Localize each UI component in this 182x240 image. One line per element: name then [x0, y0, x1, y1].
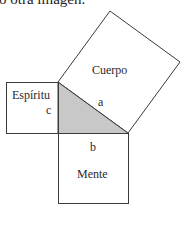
label-side-b: b: [90, 141, 96, 153]
label-cuerpo: Cuerpo: [92, 64, 127, 76]
label-espiritu: Espíritu: [12, 89, 50, 101]
label-mente: Mente: [77, 168, 108, 180]
label-side-a: a: [98, 96, 103, 108]
label-side-c: c: [46, 104, 51, 116]
